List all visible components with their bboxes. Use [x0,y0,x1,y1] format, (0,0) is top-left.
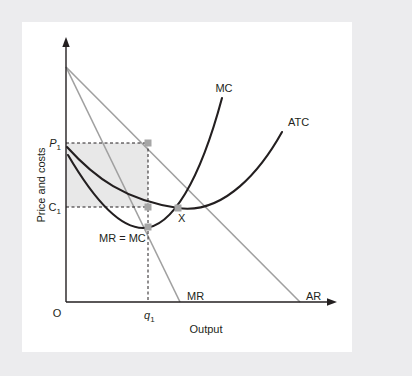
marker-mr-mc-point [145,224,152,231]
figure-root: MC ATC MR AR MR = MC X P1 C1 q1 O Price … [0,0,412,376]
x-axis-arrow-icon [327,298,337,305]
y-tick-p1-sub: 1 [57,143,62,152]
y-tick-p1: P1 [49,137,61,152]
x-tick-q1: q1 [144,309,155,324]
marker-cost-point [145,204,152,211]
y-tick-c1-letter: C [49,201,57,213]
y-axis-arrow-icon [62,37,69,47]
ar-curve-label: AR [306,290,321,302]
y-tick-c1: C1 [49,201,62,216]
economics-diagram: MC ATC MR AR MR = MC X P1 C1 q1 O Price … [0,0,412,376]
x-tick-q1-sub: 1 [150,315,155,324]
x-axis-label: Output [189,323,222,335]
y-tick-c1-sub: 1 [57,207,62,216]
point-x-label: X [178,212,186,224]
marker-min-atc-point [175,205,182,212]
atc-curve-label: ATC [288,116,309,128]
mc-curve-label: MC [215,82,232,94]
marker-price-point [145,140,152,147]
mr-equals-mc-label: MR = MC [99,232,146,244]
mr-curve-label: MR [187,290,204,302]
origin-label: O [53,307,62,319]
y-axis-label: Price and costs [35,147,47,223]
